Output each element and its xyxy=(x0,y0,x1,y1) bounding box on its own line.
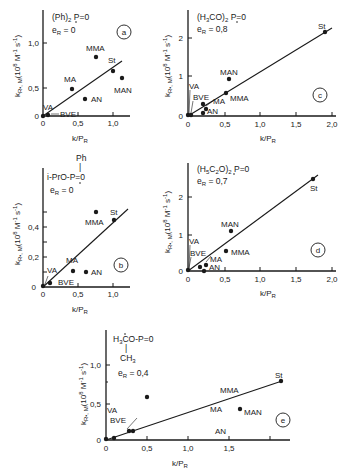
label-St: St xyxy=(318,22,326,31)
er-label: eR = 0 xyxy=(52,25,76,36)
label-AN: AN xyxy=(215,427,226,436)
label-St: St xyxy=(310,184,318,193)
point-MAN xyxy=(227,77,231,81)
svg-text:kR•, M(108 M-1 s-1): kR•, M(108 M-1 s-1) xyxy=(162,35,173,97)
y-tick: 1 xyxy=(179,231,184,240)
y-tick: 1,0 xyxy=(90,361,102,370)
label-MAN: MAN xyxy=(221,220,239,229)
x-axis-label: k/PR xyxy=(172,459,189,469)
point-St xyxy=(311,177,315,181)
point-AN xyxy=(202,269,206,273)
label-VA: VA xyxy=(43,103,54,112)
label-MMA: MMA xyxy=(86,44,105,53)
x-tick: 0 xyxy=(41,119,46,128)
point-MA xyxy=(204,263,208,267)
label-BVE: BVE xyxy=(190,249,206,258)
label-MMA: MMA xyxy=(85,218,104,227)
x-tick: 0,5 xyxy=(219,275,231,284)
label-VA: VA xyxy=(189,82,200,91)
point-VA xyxy=(186,268,190,272)
label-MA: MA xyxy=(213,97,226,106)
x-tick: 0,5 xyxy=(72,290,84,299)
point-AN xyxy=(83,97,87,101)
label-MAN: MAN xyxy=(244,408,262,417)
panel-title-bottom: CH3 xyxy=(120,353,136,364)
y-tick: 1,0 xyxy=(28,39,40,48)
figure-canvas: 0 0,5 1,0 0 0,5 1,0 k/PR kR•, M(108 M-1 … xyxy=(0,0,346,473)
label-BVE: BVE xyxy=(110,416,126,425)
panel-title-bar: | xyxy=(125,343,127,353)
point-VA xyxy=(41,114,45,118)
er-label: eR = 0,8 xyxy=(197,24,228,35)
x-tick: 0,5 xyxy=(72,119,84,128)
svg-text:kR•, M(108 M-1 s-1): kR•, M(108 M-1 s-1) xyxy=(162,191,173,253)
y-axis-label: kR•, M(108 M-1 s-1) xyxy=(78,363,89,425)
panel-tag: e xyxy=(281,416,286,425)
label-MA: MA xyxy=(64,75,77,84)
point-MMA xyxy=(224,91,228,95)
panel-title: (Ph)2 P=0 xyxy=(52,12,89,23)
point-MMA xyxy=(94,210,98,214)
x-axis-label: k/PR xyxy=(72,305,89,315)
er-label: eR = 0 xyxy=(50,185,74,196)
x-tick: 0,5 xyxy=(219,120,231,129)
label-VA: VA xyxy=(189,237,200,246)
y-tick: 0,2 xyxy=(28,253,40,262)
point-MAN xyxy=(120,76,124,80)
svg-text:kR•, M(108 M-1 s-1): kR•, M(108 M-1 s-1) xyxy=(12,203,23,265)
panel-d: 0 0,5 1,0 1,5 2,0 0 1 2 k/PR kR•, M(108 … xyxy=(162,163,338,299)
y-tick: 0,4 xyxy=(28,223,40,232)
point-St xyxy=(111,69,115,73)
y-tick: 2 xyxy=(179,193,184,202)
y-axis-label: kR•, M(108 M-1 s-1) xyxy=(162,191,173,253)
label-AN: AN xyxy=(91,95,102,104)
point-BVE xyxy=(112,436,116,440)
panel-tag: a xyxy=(122,28,127,37)
y-axis-label: kR•, M(108 M-1 s-1) xyxy=(12,35,23,97)
y-tick: 0,5 xyxy=(90,400,102,409)
panel-title-top: Ph xyxy=(76,153,87,163)
y-axis-label: kR•, M(108 M-1 s-1) xyxy=(12,203,23,265)
label-MA: MA xyxy=(210,405,223,414)
er-label: eR = 0,7 xyxy=(197,176,228,187)
label-MAN: MAN xyxy=(220,68,238,77)
y-tick: 0 xyxy=(179,267,184,276)
label-BVE: BVE xyxy=(193,93,209,102)
panel-title: H3CO-P=0 xyxy=(113,334,154,345)
point-AN2 xyxy=(201,111,205,115)
point-MMA xyxy=(224,249,228,253)
x-tick: 1,0 xyxy=(254,120,266,129)
point-MMA xyxy=(145,395,149,399)
point-BVE xyxy=(46,113,50,117)
label-AN: AN xyxy=(209,263,220,272)
panel-b: 0 0,5 1,0 0 0,2 0,4 k/PR kR•, M(108 M-1 … xyxy=(12,153,130,315)
x-tick: 1,5 xyxy=(290,120,302,129)
label-St: St xyxy=(110,208,118,217)
y-tick: 0 xyxy=(97,436,102,445)
x-axis-label: k/PR xyxy=(260,134,277,144)
x-axis-label: k/PR xyxy=(72,134,89,144)
x-axis-label: k/PR xyxy=(260,289,277,299)
panel-tag: c xyxy=(318,91,322,100)
panel-tag: b xyxy=(119,261,124,270)
x-tick: 0 xyxy=(104,444,109,453)
panel-title: (H5C2O)2 P=0 xyxy=(197,164,250,175)
label-AN: AN xyxy=(91,268,102,277)
x-tick: 2,0 xyxy=(326,275,338,284)
point-BVE xyxy=(48,281,52,285)
fit-line xyxy=(188,175,318,271)
x-tick: 1,0 xyxy=(254,275,266,284)
y-axis-label: kR•, M(108 M-1 s-1) xyxy=(162,35,173,97)
label-BVE: BVE xyxy=(58,278,74,287)
er-label: eR = 0,4 xyxy=(118,368,149,379)
y-tick: 1 xyxy=(179,72,184,81)
panel-a: 0 0,5 1,0 0 0,5 1,0 k/PR kR•, M(108 M-1 … xyxy=(12,10,132,144)
label-MA: MA xyxy=(66,256,79,265)
panel-tag: d xyxy=(316,246,320,255)
svg-text:kR•, M(108 M-1 s-1): kR•, M(108 M-1 s-1) xyxy=(12,35,23,97)
fit-line xyxy=(43,61,122,116)
point-AN xyxy=(131,429,135,433)
point-BVE xyxy=(189,113,193,117)
y-tick: 0,5 xyxy=(28,84,40,93)
panel-title: (H3CO)2 P=0 xyxy=(197,12,246,23)
